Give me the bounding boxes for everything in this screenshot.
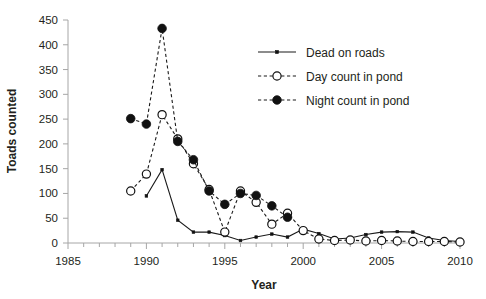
x-tick-label: 1990 [134,255,160,267]
data-point [221,228,229,236]
data-point [315,235,323,243]
legend-entry-dead-on-roads: Dead on roads [258,46,385,60]
x-tick-label: 2000 [290,255,316,267]
data-point [239,239,242,242]
data-point [396,230,399,233]
y-tick-label: 50 [45,212,58,224]
y-tick-label: 200 [39,138,58,150]
data-point [127,187,135,195]
data-point [365,233,368,236]
data-point [236,189,245,198]
data-point [268,202,277,211]
legend-marker-square-icon [276,51,279,54]
data-point [221,200,230,209]
y-tick-label: 100 [39,187,58,199]
y-tick-label: 350 [39,64,58,76]
x-axis-minor-ticks [68,243,460,249]
series-day-count-in-pond [127,111,464,247]
data-point [142,120,151,129]
data-point [330,236,338,244]
data-point [192,231,195,234]
data-point [158,111,166,119]
y-tick-label: 250 [39,113,58,125]
data-point [158,24,167,33]
legend-label: Night count in pond [306,94,409,108]
y-tick-label: 300 [39,88,58,100]
chart-legend: Dead on roadsDay count in pondNight coun… [258,46,409,108]
data-point [126,114,135,123]
data-point [346,236,354,244]
data-point [412,231,415,234]
data-point [393,237,401,245]
y-tick-label: 150 [39,163,58,175]
data-point [205,187,214,196]
series-line [131,115,460,242]
legend-label: Day count in pond [306,70,403,84]
data-series-layer [126,24,464,246]
data-point [299,227,307,235]
legend-marker-open-circle-icon [273,72,281,80]
chart-plot-area: 050100150200250300350400450 198519901995… [0,0,486,299]
x-tick-label: 1995 [212,255,238,267]
data-point [440,237,448,245]
y-tick-label: 0 [52,237,58,249]
data-point [255,236,258,239]
data-point [176,219,179,222]
data-point [362,237,370,245]
data-point [145,195,148,198]
x-tick-label: 2010 [447,255,473,267]
data-point [142,170,150,178]
toads-counted-chart: 050100150200250300350400450 198519901995… [0,0,486,299]
data-point [268,220,276,228]
x-tick-label: 2005 [369,255,395,267]
data-point [283,213,292,222]
data-point [208,231,211,234]
x-tick-label: 1985 [55,255,81,267]
data-point [252,191,261,200]
legend-marker-filled-circle-icon [273,96,282,105]
y-axis-tick-labels: 050100150200250300350400450 [39,14,58,249]
data-point [378,236,386,244]
data-point [286,236,289,239]
data-point [161,168,164,171]
series-night-count-in-pond [126,24,291,221]
x-axis-tick-labels: 198519901995200020052010 [55,255,473,267]
y-tick-label: 400 [39,39,58,51]
data-point [173,137,182,146]
data-point [425,237,433,245]
data-point [380,231,383,234]
data-point [409,237,417,245]
y-tick-label: 450 [39,14,58,26]
legend-entry-day-count-in-pond: Day count in pond [258,70,403,84]
x-axis-title: Year [251,278,277,292]
legend-label: Dead on roads [306,46,385,60]
data-point [189,155,198,164]
y-axis-ticks [63,20,68,243]
data-point [456,238,464,246]
legend-entry-night-count-in-pond: Night count in pond [258,94,409,108]
data-point [271,233,274,236]
y-axis-title: Toads counted [5,89,19,173]
